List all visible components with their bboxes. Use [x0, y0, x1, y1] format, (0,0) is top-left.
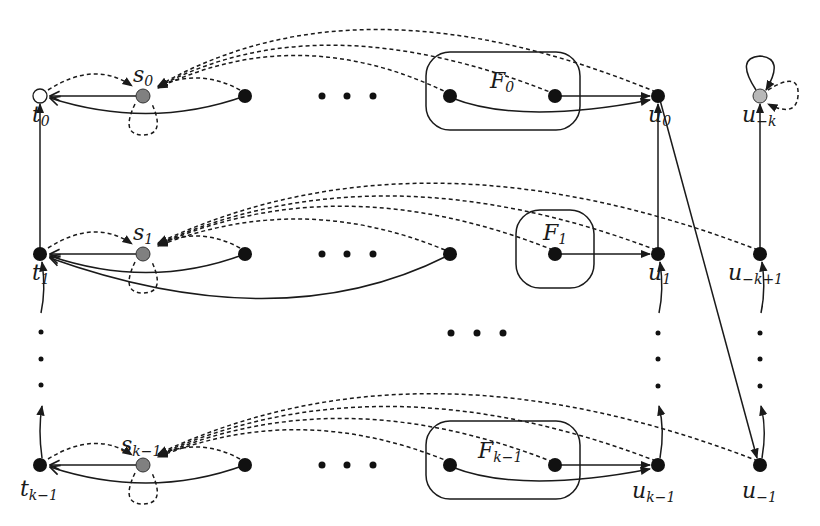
ellipsis-dot	[370, 251, 377, 258]
node-s1	[136, 247, 150, 261]
label-F1: F1	[543, 222, 567, 246]
ellipsis-dot	[319, 251, 326, 258]
dashed-b1far-s1	[158, 219, 445, 250]
ellipsis-dot	[370, 93, 377, 100]
dashed-tk1-sk1	[48, 443, 132, 459]
vertical-dot	[758, 357, 763, 362]
vertical-dot	[758, 331, 763, 336]
label-u-minus-1: u−1	[742, 480, 777, 504]
label-u-minus-k: u−k	[742, 104, 776, 128]
node-F0a	[443, 89, 457, 103]
ellipsis-dot	[344, 93, 351, 100]
node-s0	[136, 89, 150, 103]
edge-b1far-t1	[50, 256, 447, 299]
dashed-loop-s1	[129, 262, 157, 293]
node-t0	[33, 89, 47, 103]
label-sk1: sk−1	[121, 434, 161, 458]
node-tk1	[33, 458, 47, 472]
dashed-b0-s0	[158, 78, 240, 90]
ellipsis-dot	[319, 93, 326, 100]
ellipsis-dot	[319, 462, 326, 469]
vertical-dot	[656, 384, 661, 389]
label-tk1: tk−1	[20, 478, 58, 502]
node-F1	[548, 247, 562, 261]
dashed-loop-s0	[129, 104, 157, 135]
dashed-loop-sk1	[129, 473, 157, 504]
label-u-minus-k-plus-1: u−k+1	[728, 262, 783, 286]
node-u-minus-k	[753, 89, 767, 103]
label-F0: F0	[490, 70, 514, 94]
label-Fk1: Fk−1	[478, 440, 522, 464]
node-u-minus-k-plus-1	[753, 247, 767, 261]
dashed-u0-s0	[158, 29, 656, 92]
label-uk1: uk−1	[632, 480, 675, 504]
ellipsis-dot	[344, 251, 351, 258]
dashed-F0a-s0	[158, 55, 450, 94]
ellipsis-dot	[500, 330, 507, 337]
vertical-dot	[39, 330, 44, 335]
ellipsis-dot	[370, 462, 377, 469]
node-u0	[651, 89, 665, 103]
node-F0b	[548, 89, 562, 103]
label-t0: t0	[32, 104, 50, 128]
dashed-t0-s0	[48, 74, 132, 90]
vertical-dot	[656, 331, 661, 336]
vertical-dot	[39, 357, 44, 362]
node-b1far	[443, 247, 457, 261]
vertical-dot	[656, 357, 661, 362]
row-0-edges	[48, 29, 798, 135]
node-b1	[238, 247, 252, 261]
edge-u-1-up	[761, 406, 764, 458]
node-Fk1a	[443, 458, 457, 472]
node-Fk1b	[548, 458, 562, 472]
label-u0: u0	[648, 104, 671, 128]
loop-u-minus-k	[746, 56, 774, 90]
ellipsis-dot	[448, 330, 455, 337]
node-b0	[238, 89, 252, 103]
dashed-t1-s1	[48, 232, 132, 248]
edge-tk1-up	[40, 406, 42, 458]
label-s0: s0	[133, 64, 153, 88]
node-sk1	[136, 458, 150, 472]
node-u1	[651, 247, 665, 261]
vertical-dot	[758, 384, 763, 389]
edge-uk1-up	[659, 406, 662, 458]
dashed-u1-s1	[158, 196, 656, 250]
label-s1: s1	[133, 222, 153, 246]
ellipsis-dot	[344, 462, 351, 469]
node-bk1	[238, 458, 252, 472]
ellipsis-dot	[474, 330, 481, 337]
node-u-minus-1	[753, 458, 767, 472]
dashed-uk1-sk1	[158, 406, 656, 461]
label-u1: u1	[648, 262, 671, 286]
node-uk1	[651, 458, 665, 472]
vertical-dot	[39, 383, 44, 388]
node-t1	[33, 247, 47, 261]
label-t1: t1	[32, 262, 50, 286]
